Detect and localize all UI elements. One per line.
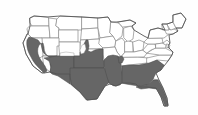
state-wyoming: [59, 30, 78, 42]
map-svg-canvas: [0, 0, 198, 115]
range-notch-colorado: [60, 52, 74, 56]
state-indiana: [125, 41, 133, 52]
us-range-map-figure: [0, 0, 198, 115]
state-washington: [30, 16, 49, 26]
state-iowa: [99, 36, 116, 48]
state-north-dakota: [82, 17, 98, 29]
state-south-dakota: [81, 28, 99, 40]
state-michigan: [124, 26, 134, 42]
state-montana: [56, 16, 82, 30]
state-maine: [173, 13, 186, 28]
